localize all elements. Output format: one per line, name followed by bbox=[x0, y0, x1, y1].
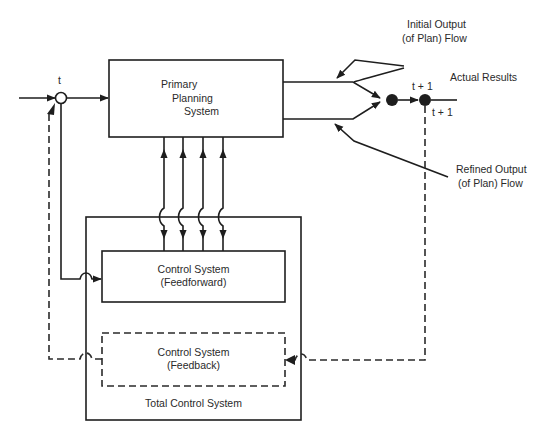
feedback-label-line2: (Feedback) bbox=[102, 359, 285, 372]
feedback-input-line bbox=[287, 106, 425, 360]
primary-planning-line3: System bbox=[184, 105, 219, 118]
initial-output-label-line2: (of Plan) Flow bbox=[402, 32, 467, 45]
initial-output-line bbox=[283, 82, 380, 98]
time-t-plus-1-bottom-label: t + 1 bbox=[432, 106, 453, 119]
primary-planning-line2: Planning bbox=[172, 92, 213, 105]
diagram-lines bbox=[0, 0, 552, 440]
feedforward-label-line1: Control System bbox=[102, 263, 285, 276]
refined-output-label-line1: Refined Output bbox=[456, 163, 527, 176]
feedback-return-arrowhead bbox=[47, 103, 55, 115]
total-control-box bbox=[86, 217, 301, 420]
feedback-return-line bbox=[49, 112, 102, 359]
output-node-icon bbox=[386, 94, 398, 106]
initial-output-pointer-line bbox=[337, 60, 404, 78]
summing-junction-icon bbox=[56, 93, 67, 104]
primary-planning-line1: Primary bbox=[161, 78, 197, 91]
refined-output-label-line2: (of Plan) Flow bbox=[458, 177, 523, 190]
actual-results-label: Actual Results bbox=[450, 71, 517, 84]
feedback-label-line1: Control System bbox=[102, 346, 285, 359]
feedforward-line bbox=[61, 104, 101, 279]
total-control-label: Total Control System bbox=[86, 397, 301, 410]
initial-output-pointer bbox=[354, 68, 404, 82]
time-t-plus-1-top-label: t + 1 bbox=[412, 80, 433, 93]
refined-output-pointer bbox=[335, 124, 448, 177]
diagram-canvas: t Primary Planning System Initial Output… bbox=[0, 0, 552, 440]
result-node-icon bbox=[419, 94, 431, 106]
feedback-input-arrowhead bbox=[285, 355, 295, 365]
planning-control-connectors bbox=[160, 137, 224, 251]
feedforward-label-line2: (Feedforward) bbox=[102, 276, 285, 289]
time-t-label: t bbox=[58, 74, 61, 87]
refined-output-line bbox=[283, 102, 380, 119]
initial-output-label-line1: Initial Output bbox=[407, 18, 466, 31]
